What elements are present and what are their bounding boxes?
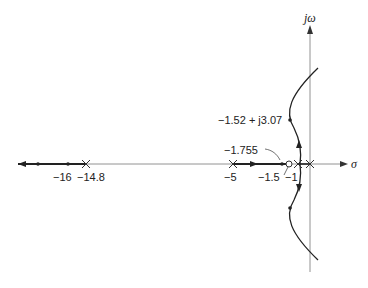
- real-axis-label: σ: [351, 158, 357, 170]
- label-pole-minus-1: −1: [285, 172, 298, 183]
- locus-upper-branch: [288, 68, 318, 164]
- point-minus-16: [66, 162, 70, 166]
- label-zero-minus-1-5: −1.5: [258, 172, 280, 183]
- locus-real-left: [18, 161, 86, 167]
- leader-breakaway: [265, 149, 280, 160]
- imag-axis: [307, 25, 313, 272]
- root-locus-plot: [0, 0, 368, 288]
- label-point-minus-16: −16: [53, 172, 72, 183]
- imag-axis-arrow-icon: [307, 25, 313, 34]
- label-breakaway: −1.755: [224, 145, 258, 156]
- point-breakaway: [280, 162, 284, 166]
- label-pole-minus-5: −5: [224, 172, 237, 183]
- point-complex: [288, 118, 292, 122]
- label-complex-point: −1.52 + j3.07: [218, 115, 282, 126]
- real-axis-arrow-icon: [340, 161, 348, 167]
- locus-real-mid: [233, 161, 287, 167]
- label-pole-minus-14-8: −14.8: [77, 172, 105, 183]
- imag-axis-label: jω: [304, 12, 316, 24]
- zero-circle-icon: [286, 161, 292, 167]
